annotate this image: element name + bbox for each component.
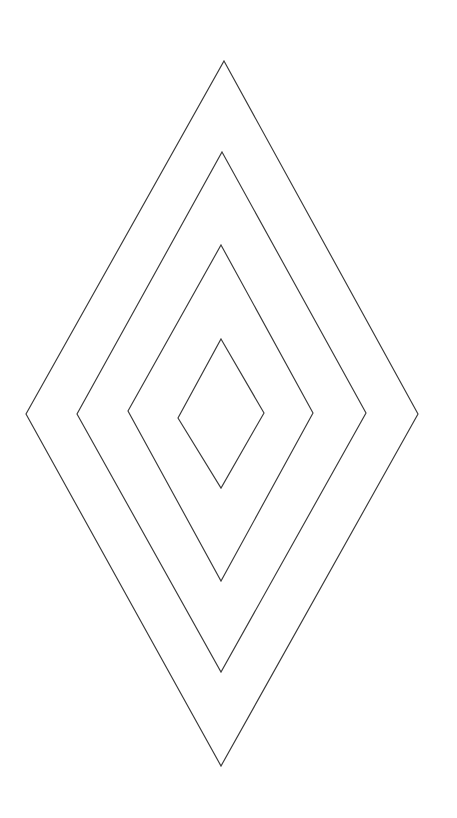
- figure-background: [0, 0, 457, 818]
- figure-canvas: [0, 0, 457, 818]
- concentric-diamonds-figure: [0, 0, 457, 818]
